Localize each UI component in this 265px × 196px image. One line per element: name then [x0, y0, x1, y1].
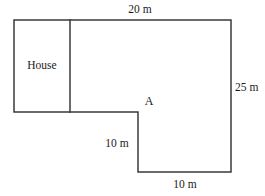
point-label-a: A — [142, 95, 156, 107]
diagram-canvas — [0, 0, 265, 196]
dimension-label-right: 25 m — [235, 82, 265, 94]
dimension-label-bottom: 10 m — [159, 179, 211, 191]
dimension-label-inner-vertical: 10 m — [100, 138, 134, 150]
land-plot-diagram: 20 m 25 m 10 m 10 m House A — [0, 0, 265, 196]
house-label: House — [16, 60, 68, 72]
dimension-label-top: 20 m — [114, 4, 166, 16]
